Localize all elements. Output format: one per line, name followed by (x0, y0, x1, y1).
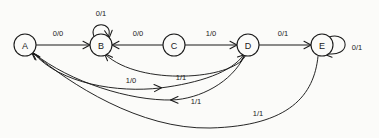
transition-label-d-to-b: 1/1 (176, 73, 186, 82)
transition-label-a-to-d: 1/0 (126, 76, 136, 85)
state-label-a: A (22, 41, 28, 51)
transition-c-to-d (185, 41, 237, 49)
fsm-canvas: A B C D E 0/0 0/1 0/0 1/0 0/1 0/1 1/1 1/… (0, 0, 379, 138)
state-node-c[interactable]: C (163, 34, 185, 56)
state-node-d[interactable]: D (237, 34, 259, 56)
transition-a-to-b (36, 41, 90, 49)
state-machine-diagram: A B C D E 0/0 0/1 0/0 1/0 0/1 0/1 1/1 1/… (0, 0, 379, 138)
transition-label-b-self-loop: 0/1 (96, 9, 106, 18)
transition-label-c-to-b: 0/0 (133, 29, 143, 38)
state-label-e: E (319, 41, 325, 51)
state-node-a[interactable]: A (14, 34, 36, 56)
transition-label-d-to-e: 0/1 (278, 29, 288, 38)
transition-label-e-self-loop: 0/1 (352, 43, 362, 52)
transition-a-to-d (34, 53, 246, 92)
transition-d-to-b (105, 54, 246, 77)
transition-d-to-a (33, 53, 245, 104)
transition-label-a-to-b: 0/0 (53, 29, 63, 38)
transition-label-c-to-d: 1/0 (206, 29, 216, 38)
state-label-b: B (98, 41, 104, 51)
state-node-b[interactable]: B (90, 34, 112, 56)
transition-label-d-to-a: 1/1 (191, 97, 201, 106)
transition-d-to-e (259, 41, 311, 49)
state-node-e[interactable]: E (311, 34, 333, 56)
state-label-c: C (171, 41, 178, 51)
transition-e-to-a (32, 52, 319, 128)
transition-label-e-to-a: 1/1 (253, 109, 263, 118)
state-label-d: D (245, 41, 252, 51)
transition-c-to-b (112, 41, 163, 49)
